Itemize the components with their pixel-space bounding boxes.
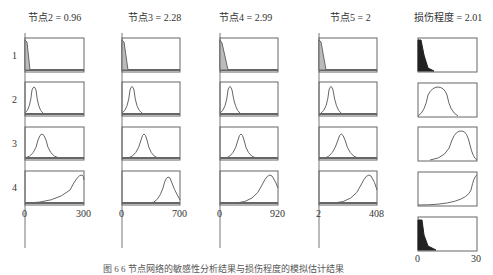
col3-xmax: 920 [270, 208, 285, 219]
column-title-node5: 节点5 = 2 [330, 9, 371, 24]
column-title-node2: 节点2 = 0.96 [28, 9, 81, 24]
column-title-node4: 节点4 = 2.99 [219, 9, 272, 24]
col2-xmin: 0 [119, 208, 124, 219]
row-label-2: 2 [12, 94, 17, 105]
column-title-damage: 损伤程度 = 2.01 [414, 9, 482, 24]
row-label-4: 4 [12, 182, 17, 193]
col2-panels [122, 38, 180, 205]
col3-panels [220, 38, 278, 205]
col5-xmax: 30 [471, 253, 481, 264]
row-label-1: 1 [12, 50, 17, 61]
col2-xmax: 700 [172, 208, 187, 219]
col1-panels [25, 38, 84, 205]
col4-xmin: 2 [316, 208, 321, 219]
col4-xmax: 408 [369, 208, 384, 219]
col1-xmax: 300 [76, 208, 91, 219]
figure-caption: 图 6 6 节点网络的敏感性分析结果与损伤程度的模拟估计结果 [103, 262, 344, 275]
column-title-node3: 节点3 = 2.28 [128, 9, 181, 24]
col1-xmin: 0 [22, 208, 27, 219]
density-grid-chart [0, 0, 493, 275]
col3-xmin: 0 [217, 208, 222, 219]
col4-panels [319, 38, 377, 205]
row-label-3: 3 [12, 138, 17, 149]
col5-panels [418, 38, 477, 251]
col5-xmin: 0 [415, 253, 420, 264]
